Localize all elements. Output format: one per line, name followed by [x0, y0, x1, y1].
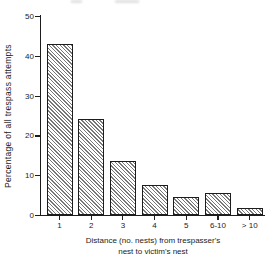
y-tick [35, 16, 40, 17]
y-tick [35, 215, 40, 216]
y-tick [35, 56, 40, 57]
x-axis-title-line1: Distance (no. nests) from trespasser's [43, 235, 263, 246]
x-tick [249, 216, 250, 220]
x-tick [217, 216, 218, 220]
plot-area: 01020304050123456-10> 10 [0, 0, 276, 262]
x-tick-label: 4 [138, 222, 172, 230]
y-tick-label: 30 [12, 93, 34, 101]
x-tick-label: 3 [106, 222, 140, 230]
y-tick-label: 50 [12, 13, 34, 21]
y-tick [35, 96, 40, 97]
x-tick [122, 216, 123, 220]
x-axis-title: Distance (no. nests) from trespasser's n… [43, 235, 263, 257]
y-tick [35, 135, 40, 136]
bar [78, 119, 104, 215]
y-tick-label: 40 [12, 53, 34, 61]
x-tick-label: > 10 [233, 222, 267, 230]
bar [237, 208, 263, 215]
x-axis-line [40, 215, 265, 216]
x-tick [59, 216, 60, 220]
x-axis-title-line2: nest to victim's nest [43, 246, 263, 257]
y-axis-line [40, 15, 41, 215]
bar-chart-figure: Percentage of all trespass attempts 0102… [0, 0, 276, 262]
x-tick [186, 216, 187, 220]
y-tick-label: 20 [12, 132, 34, 140]
x-tick-label: 5 [169, 222, 203, 230]
x-tick-label: 1 [43, 222, 77, 230]
y-tick [35, 175, 40, 176]
y-tick-label: 0 [12, 212, 34, 220]
x-tick [91, 216, 92, 220]
bar [110, 161, 136, 215]
x-tick [154, 216, 155, 220]
bar [205, 193, 231, 215]
x-tick-label: 2 [74, 222, 108, 230]
y-tick-label: 10 [12, 172, 34, 180]
bar [47, 44, 73, 215]
x-tick-label: 6-10 [201, 222, 235, 230]
bar [142, 185, 168, 215]
bar [173, 197, 199, 215]
